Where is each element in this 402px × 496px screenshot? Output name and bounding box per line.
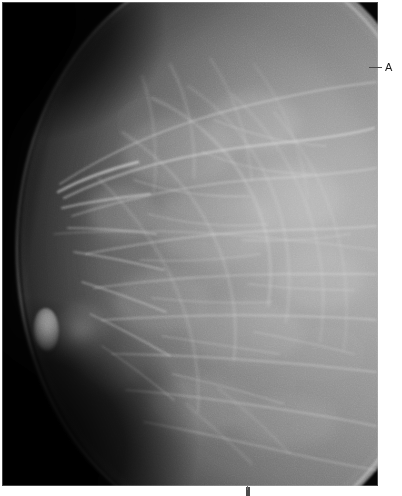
areolar-region — [52, 302, 118, 364]
skin-line-inner — [22, 2, 378, 486]
nipple-in-profile — [32, 308, 59, 354]
exposure-vignette — [2, 2, 378, 486]
glandular-islands — [2, 2, 378, 486]
annotation-a: A — [369, 62, 392, 73]
mammogram-figure: A — [0, 0, 402, 496]
edge-marker-tick — [247, 486, 248, 490]
breast-soft-tissue — [20, 2, 378, 486]
annotation-a-leader-line — [369, 67, 382, 68]
panel-border — [2, 2, 378, 486]
fibroglandular-tissue — [2, 2, 378, 486]
annotation-a-label: A — [385, 62, 392, 73]
unexposed-black-field — [2, 2, 378, 486]
film-grain — [2, 2, 378, 486]
fibroglandular-density — [72, 32, 378, 452]
skin-line — [16, 2, 378, 486]
mammogram-image — [2, 2, 378, 486]
